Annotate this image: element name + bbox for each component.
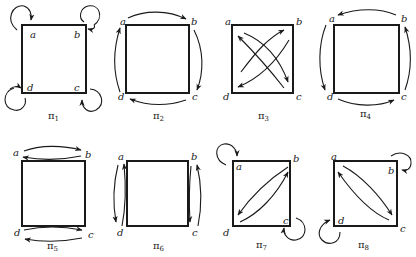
vertex-a: a (13, 147, 19, 158)
arrow-a-to-c-icon (343, 166, 392, 215)
caption-pi3: π3 (258, 110, 269, 123)
vertex-d: d (118, 91, 124, 102)
vertex-d: d (223, 227, 229, 238)
panel-pi2: a b c d π2 (115, 12, 202, 123)
arrow-b-to-a-icon (338, 10, 396, 15)
vertex-c: c (296, 91, 302, 102)
caption-pi7: π7 (256, 239, 267, 252)
panel-pi5: a b c d π5 (13, 146, 94, 253)
vertex-d: d (338, 215, 344, 226)
vertex-c: c (88, 229, 94, 240)
panel-pi8: a b c d π8 (319, 151, 411, 252)
vertex-a: a (331, 151, 337, 162)
arrow-c-to-a-icon (338, 172, 389, 220)
panel-pi1: a b c d π1 (5, 6, 102, 123)
caption-pi8: π8 (358, 239, 369, 252)
vertex-b: b (85, 149, 91, 160)
arrow-a-to-c-icon (244, 33, 288, 82)
symmetry-diagram: a b c d π1 a b c d π2 a b c d π3 (0, 0, 416, 257)
caption-pi1: π1 (48, 110, 59, 123)
vertex-c: c (401, 91, 407, 102)
arrow-b-to-c-icon (189, 166, 191, 222)
arrow-b-to-a-icon (23, 156, 81, 159)
square (334, 25, 399, 93)
vertex-a: a (118, 151, 124, 162)
square (127, 161, 188, 226)
arrow-d-to-c-icon (338, 99, 394, 105)
vertex-c: c (400, 223, 406, 234)
vertex-a: a (329, 13, 335, 24)
square (22, 161, 85, 226)
vertex-c: c (74, 82, 80, 93)
vertex-d: d (223, 91, 229, 102)
vertex-b: b (191, 151, 197, 162)
arrow-c-to-a-icon (238, 36, 284, 88)
vertex-b: b (293, 153, 299, 164)
arrow-c-to-b-icon (197, 165, 201, 226)
caption-pi5: π5 (47, 240, 58, 253)
square (232, 25, 293, 93)
arrow-a-to-b-icon (128, 12, 186, 19)
arrow-d-to-b-icon (240, 172, 288, 222)
vertex-d: d (14, 227, 20, 238)
vertex-b: b (401, 13, 407, 24)
arrow-c-to-d-icon (130, 99, 186, 104)
arrow-a-to-d-icon (320, 25, 326, 90)
vertex-c: c (283, 215, 289, 226)
square (126, 25, 189, 93)
panel-pi6: a b c d π6 (114, 151, 201, 253)
panel-pi3: a b c d π3 (223, 16, 302, 123)
arrow-d-to-a-icon (122, 164, 125, 226)
caption-pi2: π2 (153, 110, 164, 123)
panel-pi7: a b c d π7 (217, 144, 305, 252)
caption-pi4: π4 (360, 108, 372, 121)
arrow-d-to-a-icon (115, 28, 120, 92)
vertex-b: b (388, 165, 394, 176)
vertex-a: a (225, 16, 231, 27)
vertex-c: c (192, 227, 198, 238)
vertex-b: b (296, 16, 302, 27)
vertex-c: c (192, 91, 198, 102)
arrow-d-to-c-icon (24, 227, 82, 230)
vertex-b: b (191, 16, 197, 27)
vertex-b: b (74, 29, 80, 40)
loop-d-icon (319, 220, 340, 243)
arrow-b-to-d-icon (238, 167, 288, 215)
vertex-d: d (27, 82, 33, 93)
arrow-d-to-b-icon (241, 30, 284, 72)
arrow-a-to-d-icon (114, 165, 118, 222)
arrow-b-to-c-icon (194, 30, 202, 90)
arrow-a-to-b-icon (24, 146, 81, 151)
vertex-d: d (117, 227, 123, 238)
caption-pi6: π6 (153, 240, 165, 253)
vertex-d: d (327, 91, 333, 102)
vertex-a: a (236, 161, 242, 172)
vertex-a: a (30, 29, 36, 40)
panel-pi4: a b c d π4 (320, 10, 410, 121)
arrow-c-to-b-icon (405, 27, 410, 90)
vertex-a: a (120, 16, 126, 27)
